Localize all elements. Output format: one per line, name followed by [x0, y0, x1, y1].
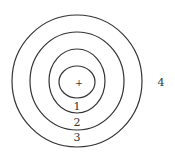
ring-label-3: 3: [74, 131, 81, 144]
center-marker: +: [75, 78, 83, 88]
ring-label-2: 2: [74, 116, 81, 129]
ring-label-1: 1: [74, 100, 81, 113]
outside-label-4: 4: [158, 76, 165, 89]
concentric-rings-diagram: + 1 2 3 4: [0, 0, 175, 158]
